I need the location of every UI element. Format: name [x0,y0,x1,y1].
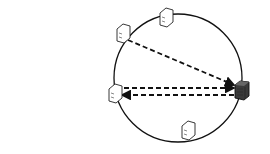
server-icon-sd [117,24,130,43]
server-icon-sb [182,121,195,140]
ring-diagram [0,0,270,154]
rendezvous-server-icon-sa [235,81,249,100]
ring-circle [114,14,242,142]
server-icon-sc [109,84,122,103]
update-arrow [128,40,234,85]
server-icon-se [160,8,173,27]
